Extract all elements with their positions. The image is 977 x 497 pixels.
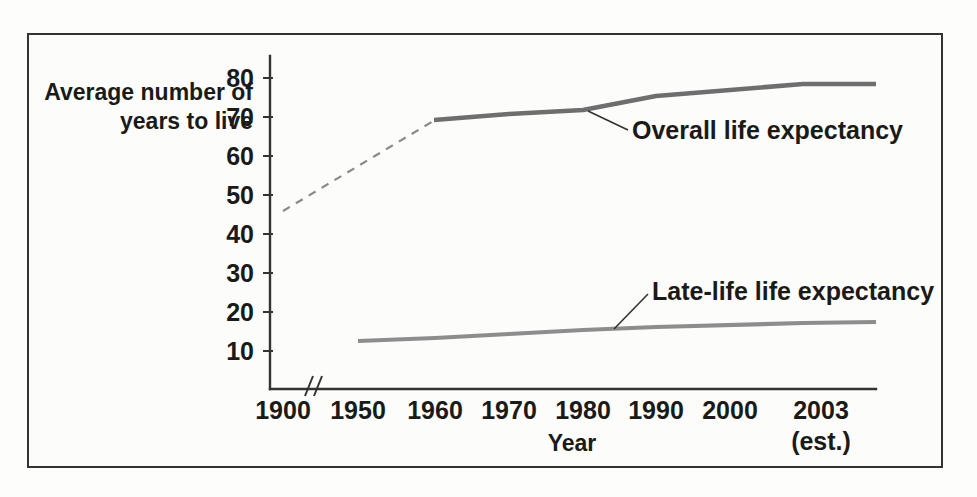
annotation-late-life-life-expectancy: Late-life life expectancy xyxy=(652,277,934,306)
x-tick-label-2003: 2003 xyxy=(766,396,876,425)
y-tick-label-40: 40 xyxy=(194,220,254,249)
y-tick-label-30: 30 xyxy=(194,259,254,288)
y-tick-label-80: 80 xyxy=(194,64,254,93)
x-tick-sublabel-2003-est: (est.) xyxy=(766,427,876,456)
x-axis-title: Year xyxy=(512,430,632,457)
series-overall-line xyxy=(434,84,876,120)
y-tick-label-70: 70 xyxy=(194,103,254,132)
y-tick-label-50: 50 xyxy=(194,181,254,210)
y-tick-label-10: 10 xyxy=(194,337,254,366)
leader-line-latelife xyxy=(614,294,648,329)
x-axis-break-mark xyxy=(305,376,322,396)
figure-container: Average number of years to live 80 70 60… xyxy=(0,0,977,497)
series-overall-dashed-segment xyxy=(283,120,435,211)
y-tick-label-20: 20 xyxy=(194,298,254,327)
y-axis-ticks xyxy=(263,78,273,351)
annotation-overall-life-expectancy: Overall life expectancy xyxy=(632,116,903,145)
y-tick-label-60: 60 xyxy=(194,142,254,171)
leader-line-overall xyxy=(588,111,628,130)
